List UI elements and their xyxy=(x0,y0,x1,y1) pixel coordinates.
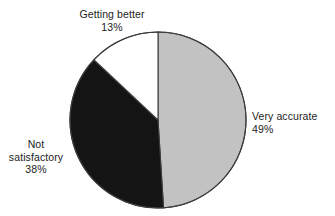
pie-label-very-accurate-percent: 49% xyxy=(252,123,332,136)
pie-label-not-satisfactory-name-line2: satisfactory xyxy=(2,151,70,164)
pie-chart-graphic xyxy=(0,0,335,216)
pie-label-getting-better: Getting better 13% xyxy=(58,8,166,33)
pie-slice-very-accurate[interactable] xyxy=(158,32,246,208)
pie-label-very-accurate-name: Very accurate xyxy=(252,110,332,123)
pie-label-not-satisfactory-percent: 38% xyxy=(2,163,70,176)
pie-label-not-satisfactory-name-line1: Not xyxy=(2,138,70,151)
pie-label-very-accurate: Very accurate 49% xyxy=(252,110,332,135)
pie-chart-figure: Getting better 13% Very accurate 49% Not… xyxy=(0,0,335,216)
pie-label-not-satisfactory: Not satisfactory 38% xyxy=(2,138,70,176)
pie-label-getting-better-percent: 13% xyxy=(58,21,166,34)
pie-label-getting-better-name: Getting better xyxy=(58,8,166,21)
